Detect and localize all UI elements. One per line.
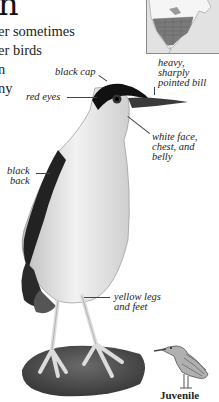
- leader-line: [154, 87, 155, 95]
- label-bill: heavy, sharply pointed bill: [158, 58, 206, 88]
- label-white-face: white face, chest, and belly: [152, 132, 198, 162]
- label-black-cap: black cap: [55, 67, 96, 77]
- leader-line: [67, 97, 97, 98]
- juvenile-heron-illustration: [154, 334, 214, 394]
- label-red-eyes: red eyes: [26, 92, 60, 102]
- juvenile-label: Juvenile: [160, 389, 199, 401]
- label-legs: yellow legs and feet: [114, 292, 161, 312]
- leader-line: [84, 297, 110, 298]
- label-black-back: black back: [7, 166, 30, 186]
- leader-line: [36, 173, 50, 174]
